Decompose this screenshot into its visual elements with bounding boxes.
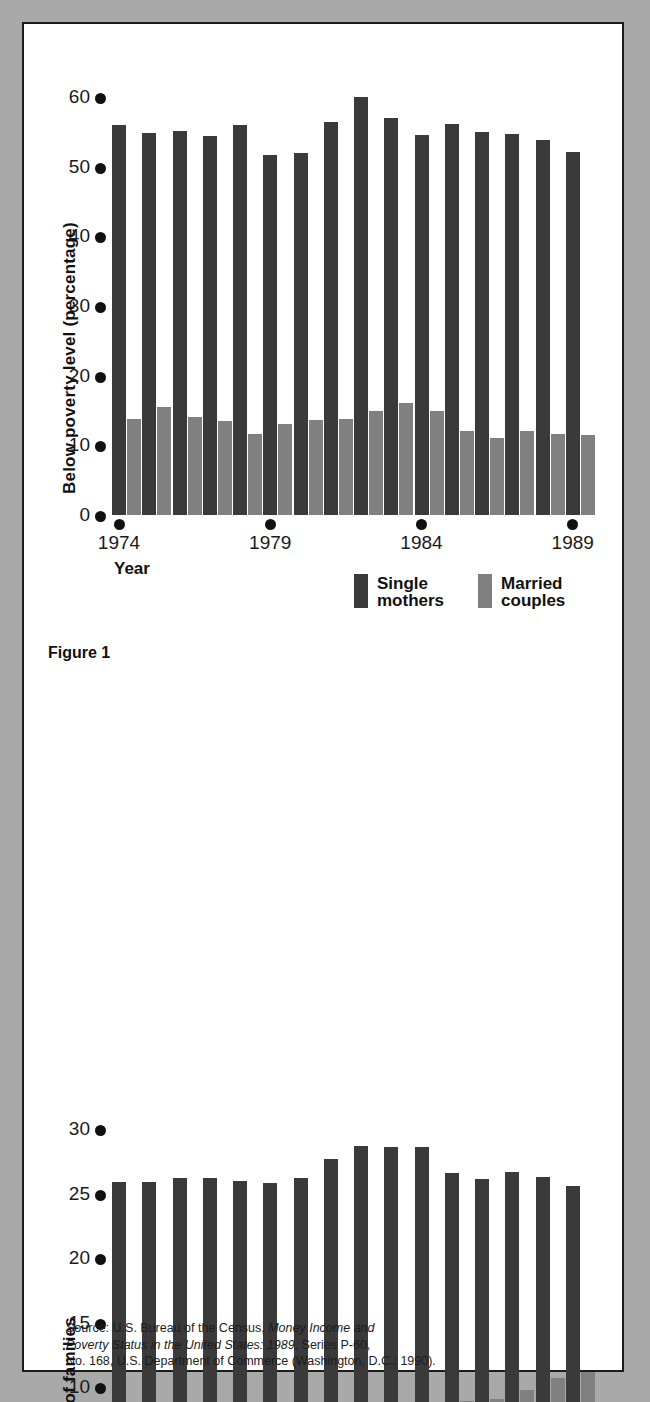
bar-series-2 (551, 1378, 565, 1402)
y-axis-tick-dot (95, 1383, 106, 1394)
y-axis-tick-dot (95, 1190, 106, 1201)
y-axis-tick: 10 (69, 1376, 106, 1398)
y-axis-tick-label: 20 (69, 1247, 90, 1268)
source-line-1-plain: Source: U.S. Bureau of the Census, (66, 1321, 268, 1335)
y-axis-tick-dot (95, 232, 106, 243)
source-line-3: No. 168, U.S. Department of Commerce (Wa… (66, 1354, 436, 1368)
bar-series-2 (581, 1372, 595, 1402)
y-axis-tick-label: 30 (69, 1118, 90, 1139)
source-line-1-italic: Money Income and (268, 1321, 374, 1335)
y-axis-tick-label: 40 (69, 225, 90, 246)
figure-2: Percentage of families 051015202530 Year… (24, 442, 622, 829)
y-axis-tick-label: 25 (69, 1183, 90, 1204)
bar-series-2 (490, 1399, 504, 1402)
y-axis-tick: 30 (69, 295, 106, 317)
source-line-2-plain: , Series P-60, (295, 1338, 371, 1352)
bar-series-1 (566, 1186, 580, 1402)
source-note: Source: U.S. Bureau of the Census, Money… (66, 1320, 586, 1370)
y-axis-tick: 20 (69, 1247, 106, 1269)
source-line-2-italic: Poverty Status in the United States: 198… (66, 1338, 295, 1352)
y-axis-tick-label: 60 (69, 86, 90, 107)
figure-card: Below poverty level (percentage) 0102030… (22, 22, 624, 1372)
bar-series-2 (520, 1390, 534, 1402)
y-axis-tick: 50 (69, 156, 106, 178)
y-axis-tick-label: 50 (69, 156, 90, 177)
y-axis-tick-dot (95, 1254, 106, 1265)
figure-1: Below poverty level (percentage) 0102030… (24, 24, 622, 442)
y-axis-tick-label: 10 (69, 1376, 90, 1397)
y-axis-tick: 30 (69, 1118, 106, 1140)
y-axis-tick-label: 30 (69, 295, 90, 316)
y-axis-tick: 40 (69, 225, 106, 247)
y-axis-tick: 20 (69, 365, 106, 387)
y-axis-tick-dot (95, 163, 106, 174)
y-axis-tick-dot (95, 302, 106, 313)
y-axis-tick: 60 (69, 86, 106, 108)
y-axis-tick: 25 (69, 1183, 106, 1205)
y-axis-tick-dot (95, 1125, 106, 1136)
y-axis-tick-dot (95, 93, 106, 104)
y-axis-tick-dot (95, 372, 106, 383)
y-axis-tick-label: 20 (69, 365, 90, 386)
